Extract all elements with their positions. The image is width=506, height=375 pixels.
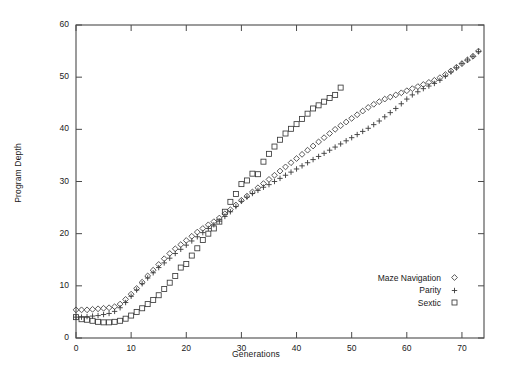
y-tick-label: 20 [43,228,69,238]
legend-entry: Maze Navigation [300,272,460,283]
y-tick-label: 10 [43,280,69,290]
square-icon [449,297,460,308]
legend-label: Sextic [418,298,441,308]
x-tick-label: 50 [339,343,365,353]
legend-label: Parity [419,285,441,295]
y-axis-title: Program Depth [13,128,23,218]
legend-label: Maze Navigation [378,273,441,283]
x-tick-label: 20 [173,343,199,353]
x-tick-label: 70 [449,343,475,353]
x-tick-label: 10 [118,343,144,353]
y-tick-label: 50 [43,71,69,81]
y-tick-label: 0 [43,332,69,342]
plot-canvas [0,0,506,375]
x-tick-label: 60 [394,343,420,353]
legend-entry: Sextic [300,297,460,308]
x-tick-label: 40 [284,343,310,353]
legend-entry: Parity [300,285,460,296]
y-tick-label: 40 [43,123,69,133]
plus-icon [449,285,460,296]
y-tick-label: 60 [43,19,69,29]
diamond-icon [449,272,460,283]
x-tick-label: 0 [63,343,89,353]
chart-figure: Program Depth Generations 01020304050600… [0,0,506,375]
y-tick-label: 30 [43,176,69,186]
x-tick-label: 30 [228,343,254,353]
